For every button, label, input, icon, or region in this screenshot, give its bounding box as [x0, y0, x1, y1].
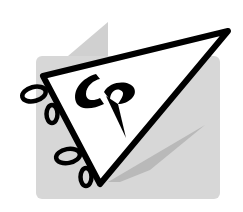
pennant-logo-graphic — [0, 0, 243, 212]
back-fold-panel — [68, 22, 108, 56]
pennant-logo: CP — [0, 0, 243, 212]
